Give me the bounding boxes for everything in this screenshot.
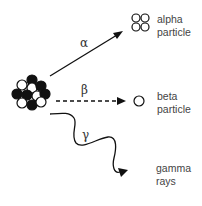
nucleus [12, 75, 50, 110]
gamma-label: gamma rays [156, 162, 191, 188]
gamma-arrow [50, 113, 128, 177]
beta-label: beta particle [157, 90, 191, 116]
alpha-label: alpha particle [157, 13, 191, 39]
alpha-symbol: α [80, 36, 88, 50]
beta-arrow [56, 97, 126, 105]
alpha-particle-icon [132, 14, 149, 31]
gamma-symbol: γ [82, 128, 89, 142]
beta-particle-icon [134, 96, 144, 106]
beta-symbol: β [81, 83, 88, 97]
